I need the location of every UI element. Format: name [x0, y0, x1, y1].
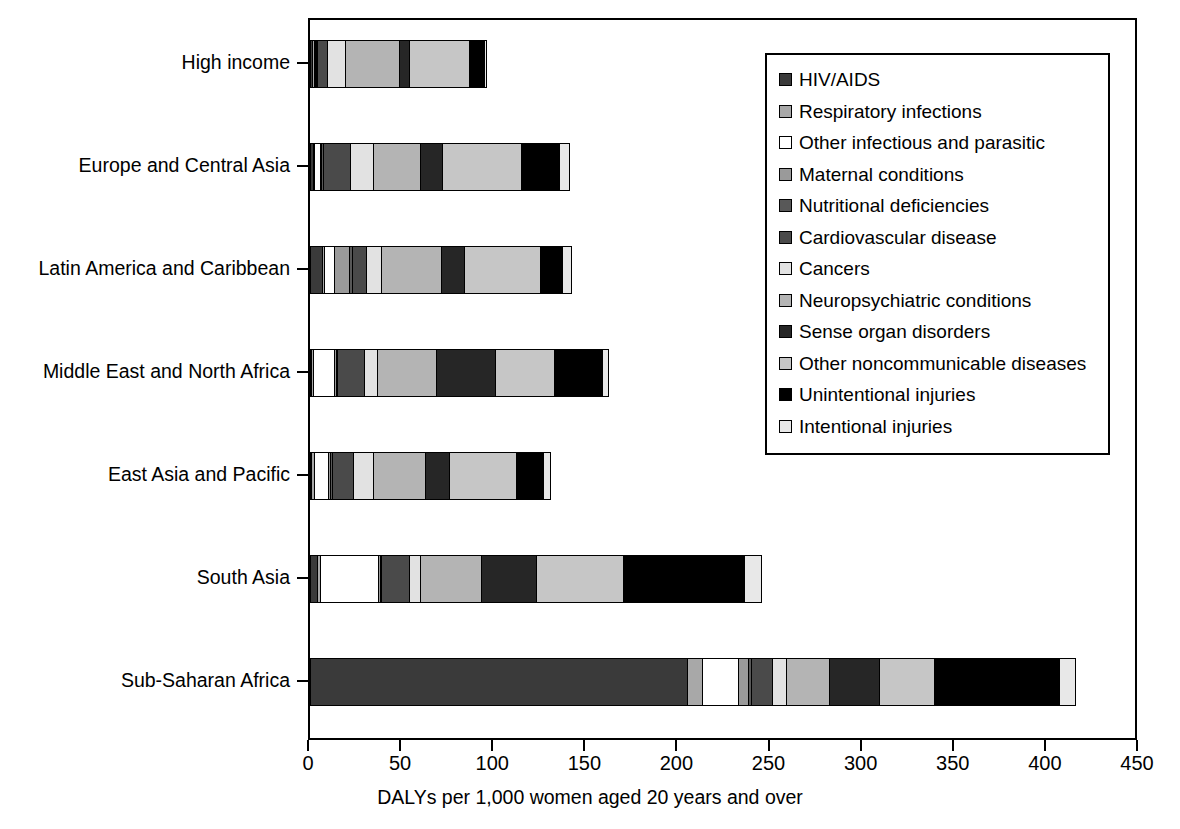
bar-segment [481, 555, 537, 603]
x-tick-label-300: 300 [844, 752, 877, 775]
bar-segment [373, 452, 426, 500]
bar-segment [373, 143, 421, 191]
legend-item: Maternal conditions [779, 159, 1098, 191]
y-axis-label-3: Latin America and Caribbean [39, 257, 291, 280]
bar-segment [543, 452, 550, 500]
bar-segment [353, 452, 374, 500]
bar-segment [934, 658, 1060, 706]
legend-item: HIV/AIDS [779, 64, 1098, 96]
legend-label: Unintentional injuries [799, 385, 975, 404]
bar-segment [687, 658, 704, 706]
legend-item: Neuropsychiatric conditions [779, 285, 1098, 317]
bar-segment [441, 246, 465, 294]
legend-label: Intentional injuries [799, 417, 952, 436]
legend-item: Other noncommunicable diseases [779, 348, 1098, 380]
bar-segment [516, 452, 545, 500]
x-tick-200 [675, 740, 677, 751]
x-tick-label-100: 100 [476, 752, 509, 775]
bar-segment [425, 452, 451, 500]
legend-swatch-icon [779, 357, 792, 370]
bar-segment [751, 658, 773, 706]
bar-segment [345, 40, 400, 88]
bar-segment [786, 658, 830, 706]
bar-segment [381, 555, 410, 603]
legend-label: Other noncommunicable diseases [799, 354, 1086, 373]
legend-label: HIV/AIDS [799, 70, 880, 89]
x-tick-label-450: 450 [1120, 752, 1153, 775]
x-tick-50 [399, 740, 401, 751]
y-axis-label-2: Europe and Central Asia [79, 154, 290, 177]
bar-segment [521, 143, 560, 191]
bar-segment [366, 246, 383, 294]
y-axis-label-4: Middle East and North Africa [43, 360, 290, 383]
x-tick-label-0: 0 [302, 752, 313, 775]
bar-segment [772, 658, 787, 706]
x-tick-label-150: 150 [568, 752, 601, 775]
y-axis-label-5: East Asia and Pacific [108, 463, 290, 486]
stacked-bar [310, 40, 486, 88]
bar-segment [337, 349, 366, 397]
bar-segment [323, 143, 352, 191]
bar-segment [381, 246, 442, 294]
x-tick-300 [860, 740, 862, 751]
legend-swatch-icon [779, 168, 792, 181]
y-tick-4 [297, 371, 308, 373]
x-tick-label-250: 250 [752, 752, 785, 775]
x-tick-label-200: 200 [660, 752, 693, 775]
bar-segment [449, 452, 516, 500]
legend-label: Maternal conditions [799, 165, 964, 184]
y-axis-label-1: High income [182, 51, 290, 74]
legend-swatch-icon [779, 105, 792, 118]
bar-segment [320, 555, 379, 603]
x-tick-0 [307, 740, 309, 751]
bar-segment [420, 143, 443, 191]
y-axis-label-6: South Asia [197, 566, 290, 589]
bar-segment [464, 246, 541, 294]
bar-segment [327, 40, 346, 88]
legend-swatch-icon [779, 231, 792, 244]
legend-item: Respiratory infections [779, 96, 1098, 128]
legend-label: Nutritional deficiencies [799, 196, 989, 215]
legend-label: Cardiovascular disease [799, 228, 997, 247]
legend-label: Respiratory infections [799, 102, 982, 121]
x-tick-350 [952, 740, 954, 751]
bar-segment [436, 349, 496, 397]
legend-swatch-icon [779, 73, 792, 86]
legend-item: Cancers [779, 253, 1098, 285]
bar-segment [334, 246, 351, 294]
bar-segment [420, 555, 482, 603]
bar-segment [350, 143, 374, 191]
stacked-bar [310, 555, 761, 603]
bar-segment [744, 555, 762, 603]
bar-segment [540, 246, 563, 294]
bar-segment [314, 452, 330, 500]
legend-item: Nutritional deficiencies [779, 190, 1098, 222]
stacked-bar [310, 349, 608, 397]
legend-label: Sense organ disorders [799, 322, 990, 341]
y-tick-1 [297, 62, 308, 64]
bar-segment [702, 658, 739, 706]
bar-segment [623, 555, 745, 603]
y-tick-5 [297, 474, 308, 476]
y-axis-label-7: Sub-Saharan Africa [121, 669, 290, 692]
y-tick-3 [297, 268, 308, 270]
x-tick-label-50: 50 [389, 752, 411, 775]
legend-swatch-icon [779, 199, 792, 212]
x-tick-400 [1044, 740, 1046, 751]
bar-segment [310, 658, 688, 706]
x-tick-label-400: 400 [1028, 752, 1061, 775]
y-tick-6 [297, 577, 308, 579]
legend-swatch-icon [779, 136, 792, 149]
x-tick-450 [1136, 740, 1138, 751]
x-tick-label-350: 350 [936, 752, 969, 775]
bar-segment [352, 246, 367, 294]
stacked-bar [310, 452, 550, 500]
bar-segment [495, 349, 556, 397]
chart-figure: High incomeEurope and Central AsiaLatin … [0, 0, 1180, 829]
bar-segment [364, 349, 378, 397]
x-axis-title: DALYs per 1,000 women aged 20 years and … [0, 786, 1180, 809]
legend-label: Cancers [799, 259, 870, 278]
legend-swatch-icon [779, 262, 792, 275]
legend-item: Other infectious and parasitic [779, 127, 1098, 159]
legend: HIV/AIDSRespiratory infectionsOther infe… [765, 53, 1110, 455]
